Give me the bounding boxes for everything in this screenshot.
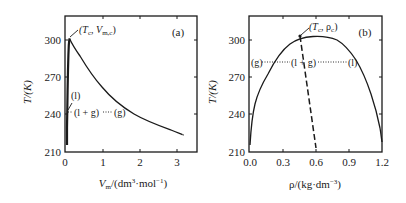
panel-b-diameter-line — [300, 36, 316, 148]
panel-a-label: (a) — [172, 26, 185, 39]
panel-a-g-annotation: (g) — [114, 107, 126, 119]
panel-b-label: (b) — [359, 26, 372, 39]
panel-a-l-annotation: (l) — [71, 90, 80, 102]
panel-b-crit-annotation: (Tc, ρc) — [309, 21, 337, 34]
panel-b-xtick-1.2: 1.2 — [375, 156, 389, 168]
panel-b-y-ticks — [249, 40, 382, 114]
panel-b-ytick-270: 270 — [229, 71, 246, 83]
panel-b-xlabel: ρ/(kg·dm−3) — [289, 178, 341, 191]
panel-a-y-ticks — [65, 40, 197, 114]
panel-a-liquid-branch — [67, 39, 70, 146]
panel-a-xtick-3: 3 — [174, 156, 180, 168]
panel-a-gas-branch — [70, 39, 184, 136]
panel-b-crit-pointer — [301, 28, 309, 35]
panel-a-crit-annotation: (Tc, Vm,c) — [79, 24, 116, 37]
panel-b-ytick-300: 300 — [229, 34, 246, 46]
panel-a-ylabel: T/(K) — [21, 80, 34, 104]
panel-a-xtick-2: 2 — [137, 156, 143, 168]
panel-a-ytick-210: 210 — [45, 146, 62, 158]
panel-a-xtick-0: 0 — [62, 156, 68, 168]
panel-a-crit-pointer — [70, 30, 78, 37]
panel-b-lg-annotation: (l + g) — [291, 57, 316, 69]
panel-b-xtick-0.3: 0.3 — [276, 156, 290, 168]
panel-a-xlabel: Vm/(dm3·mol−1) — [99, 177, 168, 191]
panel-a-ytick-300: 300 — [45, 34, 62, 46]
panel-b-xtick-0.9: 0.9 — [342, 156, 356, 168]
panel-b-xtick-0.6: 0.6 — [309, 156, 323, 168]
panel-b-coexistence-curve — [250, 36, 382, 145]
panel-a-ytick-240: 240 — [45, 108, 62, 120]
panel-b-xtick-0.0: 0.0 — [243, 156, 257, 168]
panel-a: 210 240 270 300 0 1 2 3 T/(K) Vm/(dm3·mo… — [21, 16, 197, 191]
panel-b-g-annotation: (g) — [251, 57, 263, 69]
figure: 210 240 270 300 0 1 2 3 T/(K) Vm/(dm3·mo… — [0, 0, 406, 203]
panel-b-ytick-240: 240 — [229, 108, 246, 120]
panel-b-l-annotation: (l) — [348, 57, 357, 69]
panel-b-ylabel: T/(K) — [206, 80, 219, 104]
panel-a-xtick-1: 1 — [100, 156, 106, 168]
panel-a-lg-annotation: (l + g) — [74, 107, 99, 119]
panel-b: 210 240 270 300 0.0 0.3 0.6 0.9 1.2 T/(K… — [206, 16, 389, 191]
panel-a-ytick-270: 270 — [45, 71, 62, 83]
panel-a-l-pointer — [68, 103, 72, 110]
panel-a-x-ticks — [103, 16, 177, 152]
